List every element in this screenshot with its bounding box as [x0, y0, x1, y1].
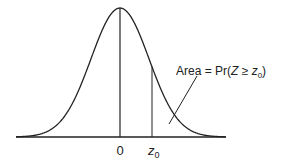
tick-label-z0: z0	[147, 143, 160, 160]
tick-label-zero: 0	[116, 143, 123, 158]
annotation-pointer	[169, 76, 197, 124]
normal-distribution-figure: 0 z0 Area = Pr(Z ≥ z0)	[0, 0, 283, 164]
area-annotation: Area = Pr(Z ≥ z0)	[176, 64, 266, 80]
